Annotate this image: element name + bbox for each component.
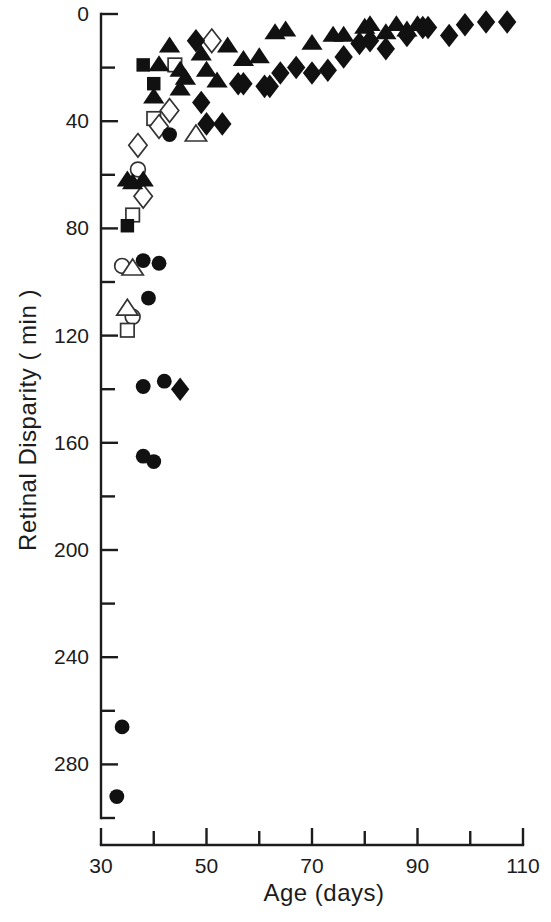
- marker-filled-diamond: [377, 37, 395, 61]
- marker-open-triangle: [117, 299, 138, 315]
- series-filled-diamond: [171, 10, 516, 401]
- x-tick-label: 50: [195, 854, 218, 877]
- marker-filled-triangle: [249, 47, 270, 63]
- scatter-plot-figure: 0408012016020024028030507090110 Age (day…: [0, 0, 551, 922]
- x-tick-label: 70: [300, 854, 323, 877]
- marker-open-diamond: [129, 134, 147, 158]
- y-tick-label: 80: [66, 216, 89, 239]
- y-tick-label: 0: [77, 2, 89, 25]
- marker-filled-diamond: [334, 45, 352, 69]
- y-tick-label: 120: [54, 324, 89, 347]
- x-tick-label: 30: [89, 854, 112, 877]
- y-tick-label: 200: [54, 538, 89, 561]
- axes: 0408012016020024028030507090110: [54, 2, 540, 877]
- marker-filled-diamond: [287, 56, 305, 80]
- y-tick-label: 240: [54, 645, 89, 668]
- marker-filled-triangle: [143, 88, 164, 104]
- marker-filled-triangle: [148, 55, 169, 71]
- marker-filled-circle: [115, 719, 130, 734]
- marker-filled-diamond: [477, 10, 495, 34]
- x-tick-label: 110: [506, 854, 539, 877]
- marker-filled-diamond: [303, 61, 321, 85]
- series-filled-circle: [109, 127, 177, 804]
- marker-open-square: [121, 323, 134, 336]
- marker-filled-diamond: [192, 91, 210, 115]
- data-markers: [109, 10, 516, 804]
- marker-filled-square: [121, 219, 134, 232]
- marker-filled-circle: [157, 374, 172, 389]
- marker-filled-diamond: [440, 24, 458, 48]
- marker-filled-circle: [152, 256, 167, 271]
- marker-filled-diamond: [456, 13, 474, 37]
- marker-filled-circle: [146, 454, 161, 469]
- marker-filled-circle: [136, 253, 151, 268]
- marker-filled-diamond: [171, 377, 189, 401]
- axis-titles: Age (days)Retinal Disparity ( min ): [14, 289, 385, 906]
- marker-filled-diamond: [319, 59, 337, 83]
- series-filled-triangle: [117, 15, 428, 189]
- marker-filled-triangle: [301, 34, 322, 50]
- marker-open-diamond: [203, 29, 221, 53]
- y-tick-label: 280: [54, 752, 89, 775]
- marker-filled-triangle: [159, 37, 180, 53]
- marker-filled-circle: [162, 127, 177, 142]
- marker-filled-diamond: [498, 10, 516, 34]
- y-tick-label: 160: [54, 431, 89, 454]
- x-axis-title: Age (days): [263, 879, 384, 906]
- plot-canvas: 0408012016020024028030507090110 Age (day…: [0, 0, 551, 922]
- marker-filled-circle: [141, 291, 156, 306]
- marker-filled-circle: [136, 379, 151, 394]
- x-tick-label: 90: [406, 854, 429, 877]
- y-axis-title: Retinal Disparity ( min ): [14, 289, 41, 551]
- y-tick-label: 40: [66, 109, 89, 132]
- marker-filled-triangle: [196, 61, 217, 77]
- marker-filled-circle: [109, 789, 124, 804]
- marker-filled-square: [136, 58, 149, 71]
- marker-filled-diamond: [213, 112, 231, 136]
